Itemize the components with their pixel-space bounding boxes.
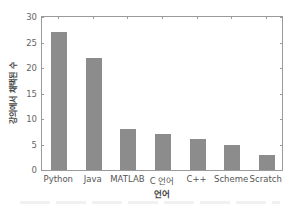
x-tick-mark	[197, 16, 198, 19]
y-tick-label: 0	[32, 165, 37, 175]
y-tick-mark-right	[280, 170, 283, 171]
y-tick-mark-right	[280, 94, 283, 95]
y-axis-label: 강의에서 채택된 수	[7, 62, 18, 124]
bar-2	[120, 129, 136, 170]
x-tick-mark	[231, 16, 232, 19]
bar-6	[259, 155, 275, 170]
x-tick-label: Python	[44, 174, 73, 184]
y-tick-mark	[41, 68, 44, 69]
plot-area	[41, 16, 283, 171]
y-tick-label: 30	[26, 12, 37, 22]
y-tick-mark	[41, 94, 44, 95]
x-tick-mark	[127, 16, 128, 19]
bar-5	[224, 145, 240, 171]
y-tick-label: 10	[26, 114, 37, 124]
bar-3	[155, 134, 171, 170]
y-tick-mark	[41, 170, 44, 171]
x-tick-mark	[58, 16, 59, 19]
y-tick-mark-right	[280, 17, 283, 18]
bar-1	[86, 58, 102, 170]
x-tick-label: MATLAB	[110, 174, 144, 184]
y-tick-label: 5	[32, 140, 37, 150]
y-tick-mark-right	[280, 119, 283, 120]
x-tick-label: C 언어	[150, 174, 175, 186]
x-axis-label: 언어	[154, 187, 170, 199]
faint-caption-line	[20, 201, 280, 204]
x-tick-mark	[93, 16, 94, 19]
y-tick-label: 20	[26, 63, 37, 73]
y-tick-mark	[41, 17, 44, 18]
y-tick-label: 25	[26, 38, 37, 48]
y-tick-mark	[41, 145, 44, 146]
bar-0	[51, 32, 67, 170]
x-tick-label: Scheme	[214, 174, 248, 184]
x-tick-label: Java	[84, 174, 102, 184]
y-tick-mark	[41, 119, 44, 120]
y-tick-mark-right	[280, 68, 283, 69]
x-tick-label: Scratch	[250, 174, 282, 184]
y-tick-mark-right	[280, 145, 283, 146]
bar-4	[190, 139, 206, 170]
y-tick-mark-right	[280, 43, 283, 44]
x-tick-mark	[162, 16, 163, 19]
y-tick-mark	[41, 43, 44, 44]
x-tick-mark	[266, 16, 267, 19]
x-tick-label: C++	[186, 174, 206, 184]
y-tick-label: 15	[26, 89, 37, 99]
